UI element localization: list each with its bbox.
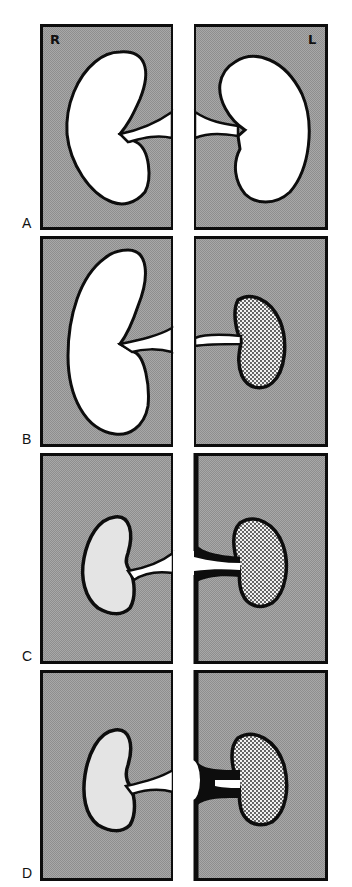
panel-b (40, 236, 328, 447)
panel-d-label: D (22, 866, 32, 880)
left-side-label: L (308, 32, 316, 47)
panel-a-diagram: R L (40, 24, 328, 230)
panel-c-label: C (22, 649, 32, 663)
left-renal-artery-narrow (195, 335, 241, 346)
panel-b-label: B (22, 432, 31, 446)
right-side-label: R (50, 32, 60, 47)
panel-d-diagram (40, 670, 328, 881)
panel-a: R L (40, 24, 328, 230)
panel-b-diagram (40, 236, 328, 447)
panel-c-diagram (40, 453, 328, 664)
panel-a-label: A (22, 216, 31, 230)
panel-c (40, 453, 328, 664)
panel-d (40, 670, 328, 881)
